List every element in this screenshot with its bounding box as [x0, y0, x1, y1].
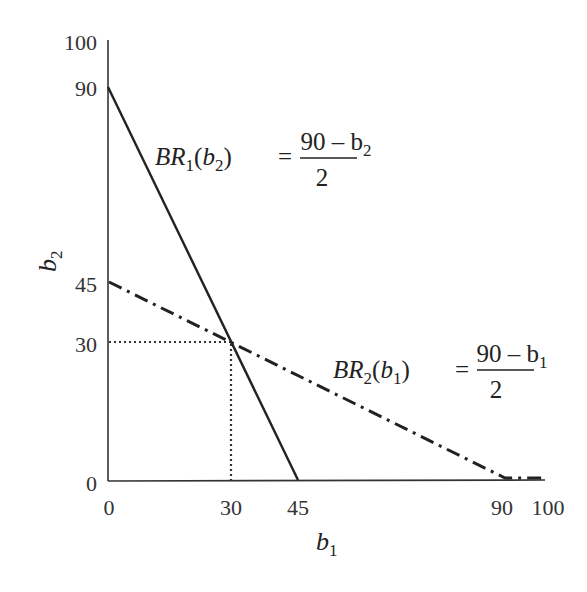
svg-text:90 – b2: 90 – b2: [301, 128, 372, 160]
svg-text:=: =: [455, 356, 469, 383]
svg-text:2: 2: [316, 164, 329, 191]
y-tick-100: 100: [64, 30, 97, 55]
svg-text:2: 2: [490, 376, 503, 403]
chart: 100 90 45 30 0 0 30 45 90 100 b1 b2 BR1(…: [0, 0, 587, 592]
y-tick-90: 90: [75, 76, 97, 101]
svg-text:BR2(b1): BR2(b1): [333, 356, 410, 388]
y-tick-45: 45: [75, 272, 97, 297]
y-tick-0: 0: [86, 471, 97, 496]
svg-text:=: =: [278, 143, 292, 170]
y-tick-30: 30: [75, 332, 97, 357]
x-axis-label: b1: [316, 527, 338, 560]
br2-equation: BR2(b1) = 90 – b1 2: [333, 340, 548, 403]
x-tick-30: 30: [220, 495, 242, 520]
br2-line: [109, 282, 545, 478]
y-axis-label: b2: [33, 251, 66, 273]
x-tick-100: 100: [532, 495, 565, 520]
x-tick-90: 90: [491, 495, 513, 520]
br1-equation: BR1(b2) = 90 – b2 2: [155, 128, 372, 191]
svg-text:90 – b1: 90 – b1: [477, 340, 548, 372]
x-axis: [108, 480, 545, 481]
svg-text:BR1(b2): BR1(b2): [155, 143, 232, 175]
x-tick-0: 0: [104, 495, 115, 520]
x-tick-45: 45: [287, 495, 309, 520]
